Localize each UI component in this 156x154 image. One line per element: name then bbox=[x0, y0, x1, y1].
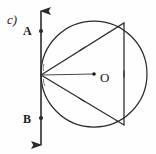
point-b-marker bbox=[39, 116, 43, 120]
tick-upper-side bbox=[79, 47, 85, 51]
center-point-dot bbox=[92, 72, 96, 76]
angle-arc-lower bbox=[43, 79, 45, 86]
label-b: B bbox=[23, 112, 31, 126]
geometry-figure: c)ABO bbox=[0, 0, 156, 154]
part-label: c) bbox=[7, 12, 17, 27]
geometry-canvas: c)ABO bbox=[0, 0, 156, 154]
point-a-marker bbox=[39, 29, 43, 33]
label-center: O bbox=[100, 70, 109, 85]
segment-vertex-to-center bbox=[41, 74, 94, 75]
angle-arc-upper bbox=[43, 64, 44, 71]
figure-labels: c)ABO bbox=[7, 12, 109, 126]
tick-lower-side bbox=[79, 98, 85, 102]
label-a: A bbox=[23, 24, 32, 38]
